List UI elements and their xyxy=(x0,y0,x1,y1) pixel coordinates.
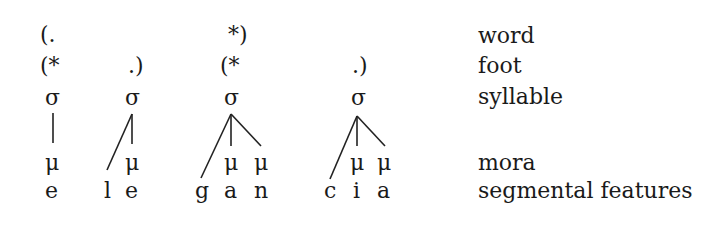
segment-c: c xyxy=(324,180,336,202)
segment-g: g xyxy=(195,180,209,202)
segment-i: i xyxy=(353,180,360,202)
tier-label-syllable: syllable xyxy=(478,86,563,108)
tier-label-foot: foot xyxy=(478,55,521,77)
segment-a-2: a xyxy=(377,180,390,202)
segment-e-1: e xyxy=(45,180,58,202)
tier-label-segmental: segmental features xyxy=(478,180,693,202)
segment-n: n xyxy=(254,180,268,202)
mora-node-4-1: μ xyxy=(350,152,364,174)
mora-node-3-1: μ xyxy=(224,152,238,174)
segment-e-2: e xyxy=(125,180,138,202)
mora-node-4-2: μ xyxy=(377,152,391,174)
segment-l: l xyxy=(104,180,111,202)
mora-node-3-2: μ xyxy=(254,152,268,174)
segment-a-1: a xyxy=(224,180,237,202)
tier-label-word: word xyxy=(478,25,535,47)
tier-label-mora: mora xyxy=(478,152,536,174)
mora-node-2-1: μ xyxy=(125,152,139,174)
mora-node-1-1: μ xyxy=(45,152,59,174)
